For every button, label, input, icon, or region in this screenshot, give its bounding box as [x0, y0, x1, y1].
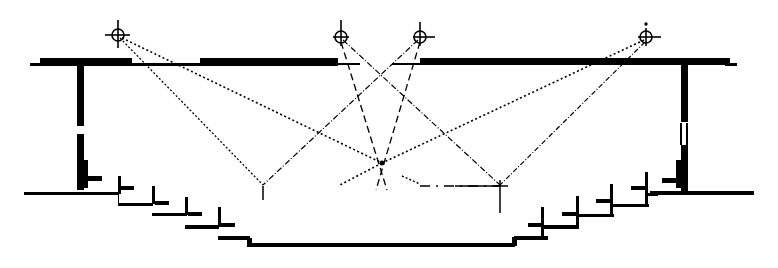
left-floor — [24, 192, 119, 195]
right-wall — [662, 64, 688, 193]
light-fixture-icon — [413, 22, 435, 46]
light-fixture-icon — [333, 20, 349, 46]
stage-floor — [247, 243, 515, 247]
theater-lighting-section-diagram — [0, 0, 778, 268]
left-seating-tiers — [118, 176, 252, 246]
left-wall — [77, 64, 102, 190]
ceiling-slab — [30, 58, 737, 66]
right-floor — [650, 191, 754, 195]
light-fixture-icon — [638, 23, 661, 46]
target-center-marker — [380, 161, 385, 166]
target-right-marker — [494, 180, 508, 213]
right-seating-tiers — [512, 172, 658, 246]
